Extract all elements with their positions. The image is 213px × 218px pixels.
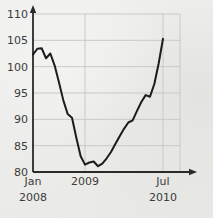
x-axis-arrow-icon: [189, 169, 197, 175]
x-tick-label-0-line2: 2008: [19, 191, 47, 204]
x-tick-label-1-line1: 2009: [71, 175, 99, 188]
y-tick-label-95: 95: [14, 87, 28, 100]
x-tick-label-2-line1: Jul: [155, 175, 169, 188]
y-tick-label-90: 90: [14, 113, 28, 126]
y-tick-label-105: 105: [7, 34, 28, 47]
x-axis-tick-labels: Jan20082009Jul2010: [19, 175, 177, 204]
series-line-index: [33, 39, 163, 166]
y-tick-label-110: 110: [7, 8, 28, 21]
data-series-layer: [33, 39, 163, 166]
grid-lines: [33, 14, 180, 172]
y-tick-label-100: 100: [7, 61, 28, 74]
x-tick-label-2-line2: 2010: [149, 191, 177, 204]
line-chart: 80859095100105110 Jan20082009Jul2010: [0, 0, 213, 218]
chart-canvas: 80859095100105110 Jan20082009Jul2010: [0, 0, 213, 218]
x-tick-label-0-line1: Jan: [24, 175, 42, 188]
y-axis-tick-labels: 80859095100105110: [7, 8, 28, 179]
y-tick-label-85: 85: [14, 140, 28, 153]
y-axis-arrow-icon: [30, 5, 36, 13]
